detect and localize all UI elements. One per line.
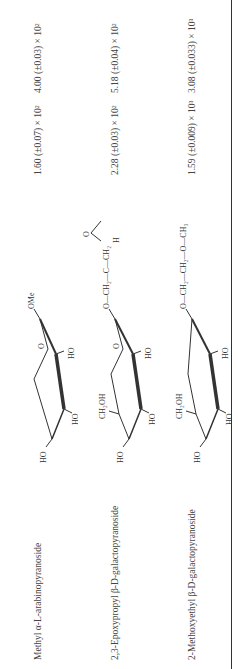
ring-bond: [188, 319, 192, 374]
ring-bond: [34, 349, 48, 379]
compound-name: 2,3-Epoxypropyl β-D-galactopyranoside: [109, 506, 121, 660]
substituent-ho: HO: [193, 451, 202, 463]
ring-bond: [52, 409, 64, 439]
structure-methoxyethyl-galactopyranoside: CH₂OH O—CH₂—CH₂—O—CH₃ HO HO HO: [152, 189, 232, 469]
compound-name: Methyl α-L-arabinopyranoside: [32, 543, 44, 660]
table-row: 2-Methoxyethyl β-D-galactopyranoside CH₂…: [162, 0, 222, 669]
ring-bond: [192, 319, 210, 354]
ring-bond-bold: [56, 354, 64, 409]
ring-bond: [196, 414, 206, 439]
value-column-2: 4.00 (±0.03) × 10²: [32, 23, 44, 93]
substituent-ho: HO: [221, 347, 230, 359]
substituent-ho: HO: [116, 451, 125, 463]
value-column-1: 1.59 (±0.009) × 10³: [186, 101, 198, 175]
value-column-1: 1.60 (±0.07) × 10²: [32, 105, 44, 175]
epoxide-hydrogen: H: [112, 237, 121, 243]
value-column-2: 5.18 (±0.04) × 10²: [109, 23, 121, 93]
ring-bond-bold: [210, 354, 218, 409]
bond: [218, 409, 226, 413]
ring-bond-bold: [133, 354, 141, 409]
ring-bond: [129, 409, 141, 439]
ring-bond: [34, 379, 52, 439]
epoxide-bond: [91, 221, 101, 233]
bond: [210, 351, 218, 354]
rotated-table-page: Methyl α-L-arabinopyranoside O OMe HO HO…: [0, 0, 238, 669]
substituent-ho: HO: [39, 451, 48, 463]
bond: [186, 411, 196, 414]
ring-bond: [206, 409, 218, 439]
value-column-2: 3.08 (±0.033) × 10³: [186, 19, 198, 93]
bond: [141, 409, 149, 413]
bond: [64, 409, 72, 413]
table-bottom-rule: [231, 0, 232, 669]
bond: [133, 351, 141, 354]
ring-oxygen: O: [37, 343, 46, 349]
bond: [34, 309, 40, 319]
structure-epoxypropyl-galactopyranoside: O CH₂OH O—CH₂—C—CH₂ O H HO HO HO: [75, 189, 155, 469]
bond: [109, 309, 115, 319]
ring-bond: [111, 349, 123, 374]
ring-bond: [188, 374, 196, 414]
compound-name: 2-Methoxyethyl β-D-galactopyranoside: [186, 509, 198, 660]
bond: [109, 411, 119, 414]
aglycone-label: O—CH₂—CH₂—O—CH₃: [179, 224, 188, 309]
bond: [186, 309, 192, 319]
bond: [200, 439, 206, 447]
substituent-ch2oh: CH₂OH: [175, 393, 184, 419]
ring-bond: [119, 414, 129, 439]
bond: [56, 351, 64, 354]
table-row: 2,3-Epoxypropyl β-D-galactopyranoside O …: [85, 0, 145, 669]
value-column-1: 2.28 (±0.03) × 10²: [109, 105, 121, 175]
bond: [46, 439, 52, 447]
bond: [123, 439, 129, 447]
ring-oxygen: O: [112, 343, 121, 349]
structure-arabinopyranoside: O OMe HO HO HO: [0, 189, 78, 469]
table-row: Methyl α-L-arabinopyranoside O OMe HO HO…: [8, 0, 68, 669]
ring-bond: [111, 374, 119, 414]
aglycone-label: O—CH₂—C—CH₂: [102, 246, 111, 309]
aglycone-label: OMe: [27, 292, 36, 309]
epoxide-bond: [91, 233, 101, 241]
epoxide-oxygen: O: [82, 231, 91, 237]
substituent-ch2oh: CH₂OH: [98, 393, 107, 419]
